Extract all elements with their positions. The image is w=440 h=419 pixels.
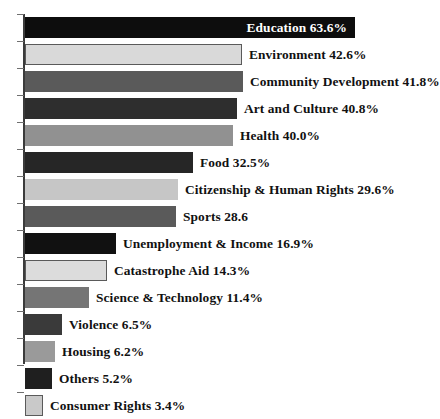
axis-tick (17, 14, 24, 15)
bar-row: Citizenship & Human Rights 29.6% (0, 176, 432, 203)
bar-value-label: Citizenship & Human Rights 29.6% (185, 179, 395, 200)
axis-tick (17, 122, 24, 123)
bar[interactable] (25, 395, 43, 416)
bar-value-label: Art and Culture 40.8% (244, 98, 379, 119)
bar-row: Catastrophe Aid 14.3% (0, 257, 432, 284)
axis-tick (17, 203, 24, 204)
bar[interactable] (25, 233, 116, 254)
bar[interactable] (25, 287, 89, 308)
bar-rows-container: Education 63.6%Environment 42.6%Communit… (0, 14, 432, 419)
bar-value-label: Others 5.2% (59, 368, 133, 389)
bar-value-label: Education 63.6% (25, 17, 347, 38)
axis-tick (17, 365, 24, 366)
bar-row: Environment 42.6% (0, 41, 432, 68)
bar-row: Violence 6.5% (0, 311, 432, 338)
bar-value-label: Food 32.5% (200, 152, 270, 173)
bar-value-label: Unemployment & Income 16.9% (123, 233, 314, 254)
bar-value-label: Housing 6.2% (62, 341, 144, 362)
bar-row: Science & Technology 11.4% (0, 284, 432, 311)
axis-tick (17, 68, 24, 69)
bar-value-label: Community Development 41.8% (250, 71, 440, 92)
bar-value-label: Violence 6.5% (69, 314, 152, 335)
bar[interactable] (25, 260, 107, 281)
axis-tick (17, 230, 24, 231)
axis-tick (17, 41, 24, 42)
axis-tick (17, 149, 24, 150)
bar-value-label: Sports 28.6 (183, 206, 248, 227)
bar-value-label: Environment 42.6% (249, 44, 367, 65)
bar-row: Others 5.2% (0, 365, 432, 392)
bar-value-label: Health 40.0% (240, 125, 320, 146)
axis-tick (17, 95, 24, 96)
bar-value-label: Consumer Rights 3.4% (50, 395, 185, 416)
bar-row: Food 32.5% (0, 149, 432, 176)
bar-row: Education 63.6% (0, 14, 432, 41)
bar[interactable] (25, 98, 237, 119)
bar[interactable] (25, 179, 178, 200)
bar-row: Unemployment & Income 16.9% (0, 230, 432, 257)
bar[interactable] (25, 71, 243, 92)
bar-row: Consumer Rights 3.4% (0, 392, 432, 419)
axis-tick (17, 284, 24, 285)
bar[interactable] (25, 368, 52, 389)
bar-row: Sports 28.6 (0, 203, 432, 230)
bar-row: Health 40.0% (0, 122, 432, 149)
bar-row: Community Development 41.8% (0, 68, 432, 95)
bar[interactable] (25, 152, 193, 173)
bar-value-label: Catastrophe Aid 14.3% (114, 260, 250, 281)
bar-row: Housing 6.2% (0, 338, 432, 365)
bar-row: Art and Culture 40.8% (0, 95, 432, 122)
axis-tick (17, 338, 24, 339)
axis-tick (17, 392, 24, 393)
bar-value-label: Science & Technology 11.4% (96, 287, 263, 308)
axis-tick (17, 257, 24, 258)
bar[interactable] (25, 314, 62, 335)
bar[interactable] (25, 44, 242, 65)
bar[interactable] (25, 341, 55, 362)
axis-tick (17, 311, 24, 312)
bar[interactable] (25, 206, 176, 227)
bar[interactable] (25, 125, 233, 146)
axis-tick (17, 176, 24, 177)
